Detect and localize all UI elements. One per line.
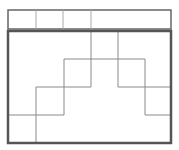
grid-segments bbox=[8, 31, 171, 143]
header-strip-border bbox=[8, 10, 171, 29]
main-grid bbox=[8, 31, 171, 143]
header-dividers bbox=[36, 10, 91, 29]
header-strip bbox=[8, 10, 171, 29]
staircase-diagram bbox=[0, 0, 179, 150]
